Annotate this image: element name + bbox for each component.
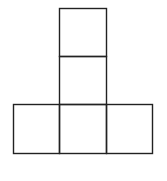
square-middle [60,57,107,105]
square-bottom-left [14,105,60,154]
square-top [60,9,107,57]
square-net-diagram [0,0,167,181]
square-bottom-right [107,105,153,154]
square-bottom-center [60,105,107,154]
